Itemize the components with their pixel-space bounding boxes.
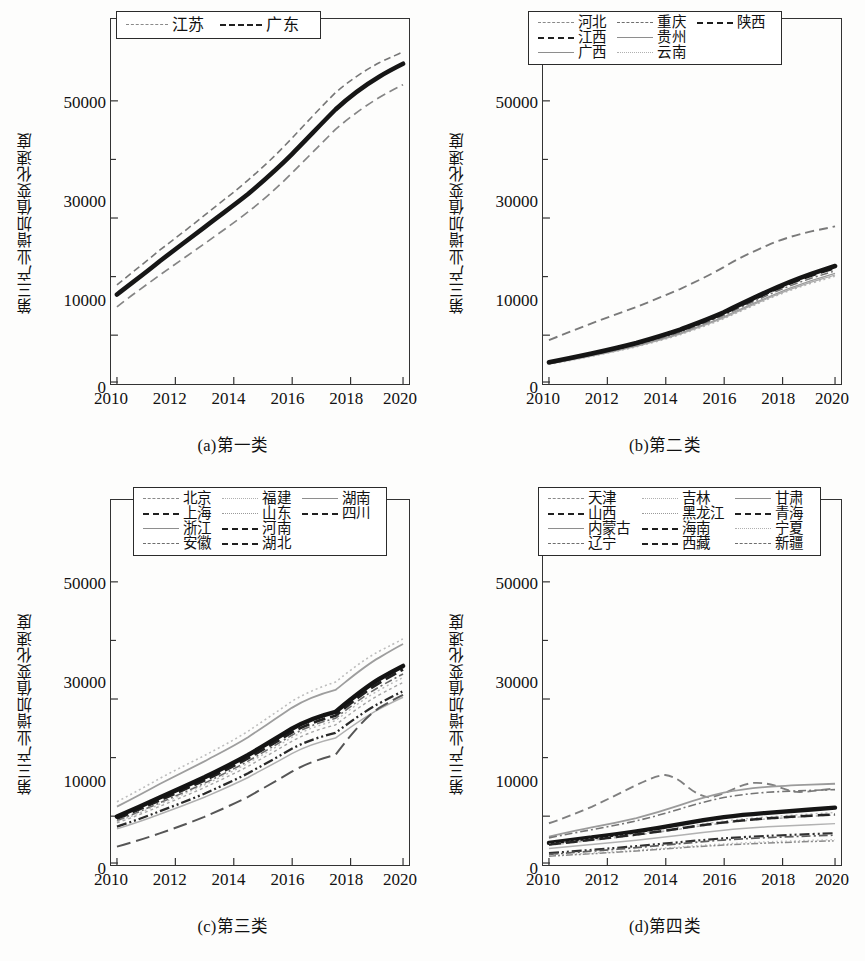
legend-label: 河南	[260, 521, 299, 536]
x-tick-label: 2016	[264, 871, 310, 888]
line-style-dashdot-bold-icon	[143, 513, 179, 515]
tick-marks-y-c	[111, 582, 118, 863]
x-tick-label: 2018	[755, 390, 801, 407]
series-line-guizhou	[549, 273, 835, 364]
tick-marks-y-d	[543, 582, 550, 863]
legend-label: 广西	[576, 45, 615, 60]
legend-label: 浙江	[181, 521, 220, 536]
legend-swatch	[141, 491, 181, 506]
tick-marks-x-d	[549, 858, 835, 865]
legend-label: 湖北	[260, 536, 299, 551]
legend-label: 湖南	[340, 491, 379, 506]
legend-label: 天津	[586, 491, 640, 506]
panel-b: 第三产业增加值变化速度 50000 30000 10000 0	[432, 0, 864, 480]
legend-swatch	[300, 506, 340, 521]
x-tick-label: 2016	[264, 390, 310, 407]
x-tick-label: 2020	[377, 390, 423, 407]
line-style-dotted-icon	[222, 498, 258, 499]
y-tick-label: 30000	[474, 674, 538, 691]
legend-swatch	[695, 15, 735, 30]
line-style-dashdot-icon	[143, 543, 179, 544]
legend-label: 青海	[773, 506, 812, 521]
series-line-guangxi	[549, 275, 835, 364]
legend-label: 江苏	[170, 15, 218, 34]
legend-swatch	[300, 491, 340, 506]
y-ticks-c: 50000 30000 10000 0	[40, 481, 106, 881]
legend-label: 安徽	[181, 536, 220, 551]
x-ticks-a: 2010 2012 2014 2016 2018 2020	[96, 390, 426, 414]
series-line-zhejiang	[117, 644, 403, 807]
tick-marks-x-a	[117, 377, 403, 384]
tick-marks-y-a	[111, 101, 118, 382]
y-tick-label: 30000	[42, 674, 106, 691]
legend-label: 江西	[576, 30, 615, 45]
x-tick-label: 2010	[88, 390, 134, 407]
x-tick-label: 2012	[147, 871, 193, 888]
legend-label: 宁夏	[773, 521, 812, 536]
legend-swatch	[546, 521, 586, 536]
legend-swatch	[536, 15, 576, 30]
legend-swatch	[546, 506, 586, 521]
legend-swatch	[220, 536, 260, 551]
panel-caption-c: (c)第三类	[0, 913, 432, 937]
legend-b: 河北 重庆 陕西 江西 贵州 广西 云南	[528, 11, 782, 65]
legend-swatch	[733, 506, 773, 521]
x-tick-label: 2020	[809, 390, 855, 407]
series-line-liaoning	[549, 790, 835, 838]
legend-swatch	[141, 536, 181, 551]
x-tick-label: 2018	[323, 390, 369, 407]
series-line-hunan	[117, 697, 403, 829]
line-style-dashed-bold-icon	[222, 528, 258, 530]
x-tick-label: 2016	[696, 390, 742, 407]
legend-label: 山东	[260, 506, 299, 521]
y-ticks-a: 50000 30000 10000 0	[40, 0, 106, 400]
x-tick-label: 2014	[638, 871, 684, 888]
y-tick-label: 30000	[42, 193, 106, 210]
panel-d: 第三产业增加值变化速度 50000 30000 10000 0	[432, 481, 864, 961]
panel-caption-d: (d)第四类	[432, 913, 864, 937]
legend-c: 北京 福建 湖南 上海 山东 四川 浙江	[133, 487, 387, 556]
y-tick-label: 30000	[474, 193, 538, 210]
line-style-dashed-bold-icon	[642, 528, 678, 530]
x-tick-label: 2012	[579, 871, 625, 888]
y-tick-label: 10000	[474, 773, 538, 790]
y-tick-label: 10000	[474, 292, 538, 309]
legend-label: 贵州	[655, 30, 694, 45]
legend-label: 内蒙古	[586, 521, 640, 536]
legend-swatch	[220, 506, 260, 521]
x-tick-label: 2018	[323, 871, 369, 888]
legend-label: 河北	[576, 15, 615, 30]
legend-d: 天津 吉林 甘肃 山西 黑龙江 青海 内蒙古	[538, 487, 821, 556]
line-style-dashdot-bold-icon	[220, 24, 262, 26]
line-style-dashed-icon	[548, 498, 584, 499]
panel-caption-a: (a)第一类	[0, 432, 432, 456]
legend-swatch	[640, 521, 680, 536]
plot-svg-a	[111, 19, 409, 384]
x-tick-label: 2010	[520, 871, 566, 888]
y-tick-label: 10000	[42, 292, 106, 309]
line-style-dashed-icon	[143, 498, 179, 499]
legend-swatch	[733, 491, 773, 506]
y-axis-label-b: 第三产业增加值变化速度	[446, 92, 470, 354]
legend-label: 北京	[181, 491, 220, 506]
y-tick-label: 50000	[42, 575, 106, 592]
legend-swatch	[546, 491, 586, 506]
y-tick-label: 50000	[474, 575, 538, 592]
plot-area-a	[110, 18, 410, 385]
series-line-chongqing	[549, 271, 835, 364]
y-ticks-d: 50000 30000 10000 0	[472, 481, 538, 881]
line-style-dotted-icon	[642, 513, 678, 514]
legend-swatch	[615, 45, 655, 60]
legend-swatch	[141, 521, 181, 536]
legend-swatch	[546, 536, 586, 551]
legend-label: 陕西	[735, 15, 774, 30]
legend-label: 黑龙江	[680, 506, 734, 521]
line-style-solid-icon	[617, 37, 653, 38]
line-style-dashed-bold-icon	[697, 22, 733, 24]
x-ticks-d: 2010 2012 2014 2016 2018 2020	[528, 871, 858, 895]
x-tick-label: 2010	[520, 390, 566, 407]
line-style-solid-icon	[143, 528, 179, 529]
figure-four-panel-line-charts: 第三产业增加值变化速度 50000 30000 10000 0	[0, 0, 865, 961]
y-tick-label: 50000	[474, 94, 538, 111]
line-style-dashdot-bold-icon	[302, 513, 338, 515]
